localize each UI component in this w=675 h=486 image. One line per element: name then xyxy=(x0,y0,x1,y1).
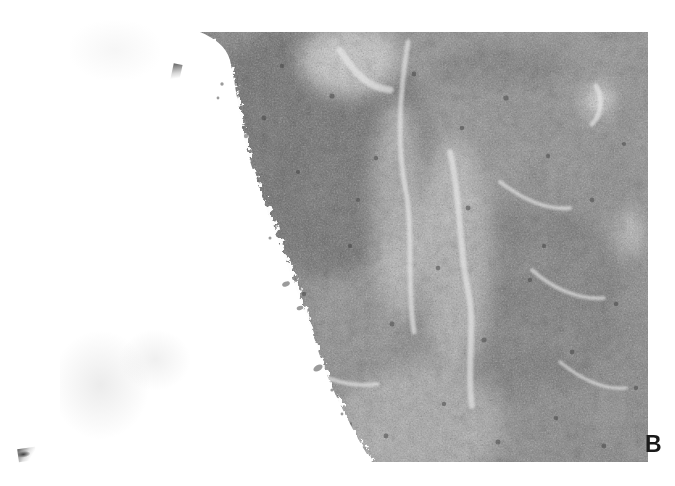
micrograph-image xyxy=(200,32,648,462)
edge-speck-icon xyxy=(170,63,182,81)
page-smudge-top-icon xyxy=(70,20,160,80)
page-smudge-mid-icon xyxy=(120,330,190,390)
micrograph-canvas xyxy=(200,32,648,462)
corner-speck-icon xyxy=(17,447,37,462)
page-smudge-left-icon xyxy=(60,330,150,440)
panel-label: B xyxy=(645,433,662,456)
figure-panel: B xyxy=(0,0,675,486)
